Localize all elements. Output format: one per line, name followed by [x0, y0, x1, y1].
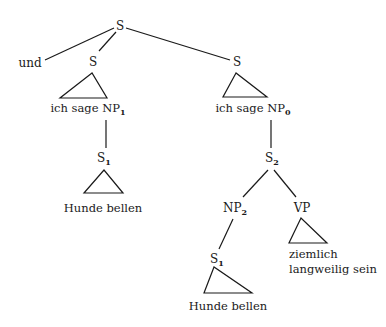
node-label: VP	[294, 201, 311, 215]
edge-root-s-left	[99, 32, 116, 51]
node-label: S	[265, 151, 273, 165]
node-vp-leaf-line1: ziemlich	[289, 248, 338, 261]
node-leaf-lower: Hunde bellen	[189, 300, 267, 313]
edge-s2-np2	[243, 170, 268, 197]
node-label: NP	[223, 201, 242, 215]
node-subscript: 2	[242, 207, 248, 217]
node-label: S	[89, 55, 97, 69]
node-left-clause: ich sage NP1	[50, 102, 125, 115]
node-label: ziemlich	[289, 247, 338, 261]
node-vp-leaf-line2: langweilig sein	[289, 263, 377, 276]
triangle-right-clause	[223, 73, 267, 97]
triangle-left-clause	[60, 73, 107, 98]
node-s-left: S	[89, 56, 97, 69]
node-label: langweilig sein	[289, 262, 377, 276]
node-label: Hunde bellen	[189, 299, 267, 313]
node-und: und	[18, 57, 41, 70]
node-label: ich sage NP	[215, 101, 285, 115]
node-right-clause: ich sage NP0	[215, 102, 290, 115]
node-s1-upper: S1	[97, 152, 111, 165]
node-subscript: 2	[273, 157, 279, 167]
node-label: S	[97, 151, 105, 165]
tree-edges	[0, 0, 386, 327]
triangle-lower-leaf	[204, 267, 252, 293]
edge-np2-s1	[219, 219, 233, 249]
triangle-vp	[289, 218, 327, 243]
node-leaf-upper: Hunde bellen	[64, 202, 142, 215]
node-label: und	[18, 56, 41, 70]
node-subscript: 1	[105, 157, 111, 167]
triangle-upper-leaf	[84, 170, 123, 193]
node-subscript: 1	[120, 107, 126, 117]
node-label: S	[233, 55, 241, 69]
node-label: ich sage NP	[50, 101, 120, 115]
node-subscript: 1	[218, 258, 224, 268]
node-s1-lower: S1	[210, 253, 224, 266]
node-label: S	[116, 19, 124, 33]
edge-s2-vp	[274, 170, 296, 197]
node-vp: VP	[294, 202, 311, 215]
node-root-s: S	[116, 20, 124, 33]
node-subscript: 0	[285, 107, 291, 117]
node-label: S	[210, 252, 218, 266]
node-np2: NP2	[223, 202, 247, 215]
node-s-right: S	[233, 56, 241, 69]
node-label: Hunde bellen	[64, 201, 142, 215]
node-s2: S2	[265, 152, 279, 165]
edge-root-s-right	[126, 28, 230, 60]
edge-root-und	[45, 28, 114, 60]
